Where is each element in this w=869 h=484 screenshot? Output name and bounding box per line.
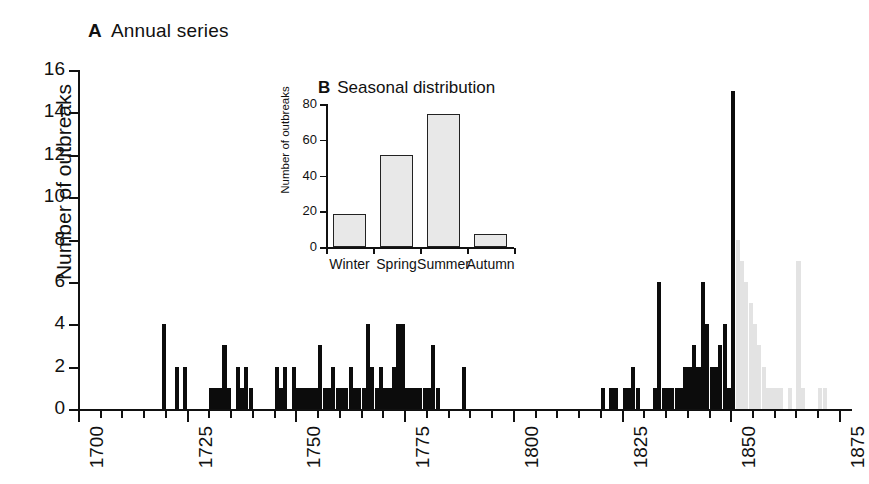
panel-a-x-tick-minor [165, 411, 167, 418]
panel-b-x-tick [467, 248, 469, 254]
panel-a-x-tick-major [622, 411, 624, 422]
panel-a-x-tick-minor [469, 411, 471, 418]
panel-a-title: AAnnual series [88, 20, 229, 42]
panel-a-x-axis-line [78, 409, 852, 411]
table-row [462, 367, 466, 409]
panel-a-x-tick-minor [600, 411, 602, 418]
panel-a-x-tick-minor [535, 411, 537, 418]
panel-a-y-tick-mark [69, 112, 78, 114]
panel-a-x-tick-minor [448, 411, 450, 418]
panel-a-x-tick-minor [795, 411, 797, 418]
table-row [227, 388, 231, 409]
panel-a-x-tick-minor [361, 411, 363, 418]
panel-a-x-tick-major [513, 411, 515, 422]
panel-b-title: BSeasonal distribution [318, 78, 495, 98]
table-row [436, 388, 440, 409]
panel-a-x-tick-minor [317, 411, 319, 418]
panel-b-title-text: Seasonal distribution [337, 78, 495, 97]
panel-a-y-tick-mark [69, 409, 78, 411]
list-item [380, 155, 414, 246]
panel-a-x-tick-minor [817, 411, 819, 418]
table-row [788, 388, 792, 409]
panel-a-x-tick-label: 1750 [303, 426, 325, 468]
panel-a-y-tick-label: 2 [54, 355, 65, 377]
panel-a-x-tick-minor [339, 411, 341, 418]
panel-a-x-tick-label: 1775 [412, 426, 434, 468]
panel-b-x-tick [514, 248, 516, 254]
panel-a-x-tick-minor [143, 411, 145, 418]
panel-a-y-tick-label: 8 [54, 228, 65, 250]
panel-a-y-tick-mark [69, 240, 78, 242]
panel-b-y-axis-line [326, 104, 328, 248]
panel-a-x-tick-minor [208, 411, 210, 418]
panel-a-x-tick-label: 1850 [738, 426, 760, 468]
table-row [801, 388, 805, 409]
panel-a-x-tick-major [730, 411, 732, 422]
panel-a-y-tick-label: 12 [44, 143, 65, 165]
table-row [796, 261, 800, 409]
panel-a-y-tick-mark [69, 155, 78, 157]
panel-a-y-tick-label: 10 [44, 185, 65, 207]
table-row [601, 388, 605, 409]
panel-a-x-tick-minor [426, 411, 428, 418]
panel-a-x-tick-major [404, 411, 406, 422]
table-row [614, 388, 618, 409]
panel-b-x-tick [373, 248, 375, 254]
panel-a-x-tick-minor [752, 411, 754, 418]
panel-a-x-tick-minor [709, 411, 711, 418]
panel-a-y-tick-label: 16 [44, 58, 65, 80]
panel-a-x-tick-minor [556, 411, 558, 418]
panel-a-x-tick-minor [274, 411, 276, 418]
panel-a-y-tick-mark [69, 197, 78, 199]
panel-a-x-tick-major [78, 411, 80, 422]
panel-a-title-text: Annual series [111, 20, 229, 41]
panel-b-y-tick-label: 40 [303, 168, 317, 184]
panel-b-y-tick-label: 80 [303, 96, 317, 112]
panel-a-x-tick-label: 1825 [630, 426, 652, 468]
panel-a-x-tick-label: 1800 [521, 426, 543, 468]
panel-b-plot-area: 020406080 WinterSpringSummerAutumn [326, 104, 514, 248]
panel-a-x-tick-minor [774, 411, 776, 418]
panel-a-label: A [88, 20, 102, 41]
panel-b-x-tick-label: Autumn [461, 256, 520, 272]
table-row [175, 367, 179, 409]
panel-a-x-tick-minor [252, 411, 254, 418]
panel-a-x-tick-minor [382, 411, 384, 418]
list-item [427, 114, 461, 246]
panel-b-y-tick-label: 20 [303, 203, 317, 219]
panel-a-x-tick-minor [578, 411, 580, 418]
panel-a-y-tick-label: 14 [44, 100, 65, 122]
panel-a-x-tick-minor [491, 411, 493, 418]
panel-b-y-tick-mark [320, 176, 326, 178]
panel-a-x-tick-minor [687, 411, 689, 418]
list-item [333, 214, 367, 246]
panel-b-y-tick-mark [320, 140, 326, 142]
panel-a-x-tick-minor [230, 411, 232, 418]
panel-a-y-tick-mark [69, 324, 78, 326]
panel-b-y-tick-mark [320, 211, 326, 213]
table-row [283, 367, 287, 409]
panel-a-x-tick-major [187, 411, 189, 422]
panel-b-x-tick [326, 248, 328, 254]
table-row [779, 388, 783, 409]
panel-b-y-tick-mark [320, 104, 326, 106]
panel-a-y-tick-label: 4 [54, 312, 65, 334]
panel-a-y-tick-mark [69, 282, 78, 284]
panel-a-x-tick-label: 1875 [847, 426, 869, 468]
panel-b-label: B [318, 78, 330, 97]
table-row [636, 388, 640, 409]
panel-b-x-tick [420, 248, 422, 254]
list-item [474, 234, 508, 247]
panel-a-x-tick-label: 1725 [195, 426, 217, 468]
panel-a-y-tick-mark [69, 70, 78, 72]
table-row [823, 388, 827, 409]
panel-a-x-tick-major [839, 411, 841, 422]
panel-b-y-tick-label: 0 [310, 239, 317, 255]
table-row [183, 367, 187, 409]
panel-a-x-tick-label: 1700 [86, 426, 108, 468]
panel-a-x-tick-minor [100, 411, 102, 418]
panel-a-x-tick-minor [643, 411, 645, 418]
panel-a-x-tick-major [295, 411, 297, 422]
panel-b-y-tick-label: 60 [303, 132, 317, 148]
table-row [249, 388, 253, 409]
